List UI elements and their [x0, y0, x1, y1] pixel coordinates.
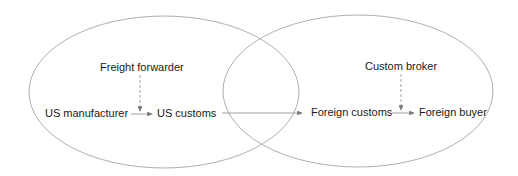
foreign-region-ellipse — [223, 15, 493, 167]
node-foreign-customs: Foreign customs — [311, 106, 392, 119]
us-region-ellipse — [29, 16, 299, 168]
diagram-canvas — [0, 0, 518, 176]
node-freight-forwarder: Freight forwarder — [100, 61, 184, 74]
node-foreign-buyer: Foreign buyer — [419, 106, 487, 119]
node-custom-broker: Custom broker — [365, 60, 437, 73]
node-us-customs: US customs — [157, 107, 216, 120]
node-us-manufacturer: US manufacturer — [45, 107, 128, 120]
